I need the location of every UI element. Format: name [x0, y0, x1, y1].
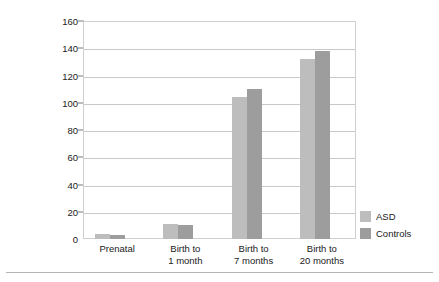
bar: [163, 224, 178, 239]
bar: [110, 235, 125, 239]
bar-chart-figure: Amount of cumulative exposure to thimero…: [0, 0, 439, 282]
y-tick-label: 40: [48, 179, 78, 190]
bar-group: [220, 21, 288, 239]
y-axis-title: Amount of cumulative exposure to thimero…: [14, 28, 50, 240]
legend-item: ASD: [360, 209, 438, 224]
bar-group: [288, 21, 356, 239]
bottom-divider: [6, 272, 433, 273]
bar-group: [83, 21, 151, 239]
legend-label: ASD: [376, 211, 396, 222]
bar: [95, 234, 110, 239]
chart-legend: ASDControls: [360, 209, 438, 243]
y-tick-label: 140: [48, 43, 78, 54]
bar: [232, 97, 247, 239]
legend-item: Controls: [360, 226, 438, 241]
bar: [300, 59, 315, 239]
bar: [178, 225, 193, 239]
y-tick-label: 160: [48, 16, 78, 27]
y-tick-label: 120: [48, 70, 78, 81]
y-tick-label: 80: [48, 125, 78, 136]
legend-label: Controls: [376, 228, 411, 239]
bar-group: [151, 21, 219, 239]
y-tick-label: 60: [48, 152, 78, 163]
x-category-label: Birth to20 months: [277, 243, 367, 267]
bar: [247, 89, 262, 239]
legend-swatch-icon: [360, 211, 371, 222]
bars-layer: [83, 21, 356, 239]
y-tick-label: 20: [48, 206, 78, 217]
bar: [315, 51, 330, 239]
legend-swatch-icon: [360, 228, 371, 239]
y-tick-label: 100: [48, 97, 78, 108]
